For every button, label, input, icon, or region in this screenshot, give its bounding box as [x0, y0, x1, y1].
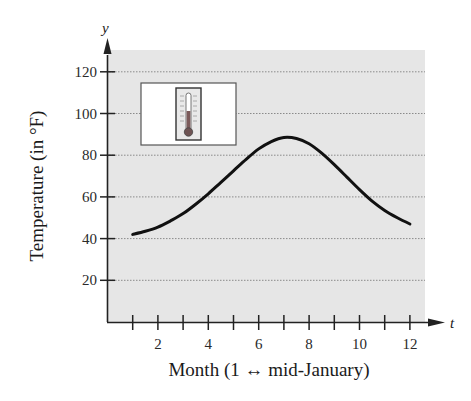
y-axis-title: Temperature (in °F)	[26, 111, 48, 262]
x-tick-label: 8	[305, 336, 313, 352]
x-axis-title: Month (1 ↔ mid-January)	[168, 359, 369, 381]
x-tick-label: 4	[205, 336, 213, 352]
temperature-chart: y 20406080100120 t 24681012 Month (1 ↔ m…	[0, 0, 471, 401]
x-tick-label: 2	[154, 336, 162, 352]
x-tick-label: 12	[402, 336, 417, 352]
x-axis-arrow-icon	[428, 319, 445, 327]
y-tick-label: 120	[75, 64, 98, 80]
x-tick-label: 10	[352, 336, 367, 352]
x-tick-label: 6	[255, 336, 263, 352]
y-tick-label: 100	[75, 106, 98, 122]
x-axis-variable: t	[450, 315, 455, 331]
y-tick-label: 80	[82, 147, 97, 163]
y-axis-variable: y	[100, 20, 109, 36]
y-tick-label: 20	[82, 272, 97, 288]
thermometer-inset	[141, 83, 236, 145]
y-axis-arrow-icon	[104, 38, 112, 54]
thermometer-icon	[176, 88, 201, 140]
y-tick-label: 40	[82, 231, 97, 247]
y-tick-label: 60	[82, 189, 97, 205]
